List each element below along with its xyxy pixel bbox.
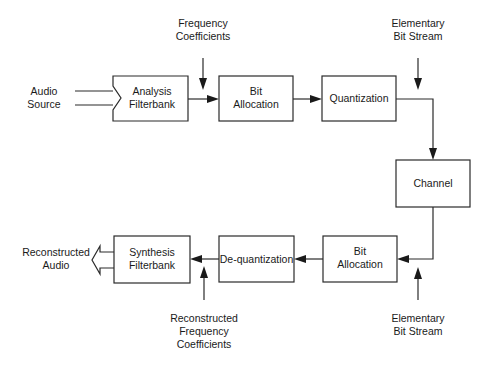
analysis-filterbank-label-line2: Filterbank: [129, 98, 176, 110]
synthesis-filterbank-label-line1: Synthesis: [129, 246, 175, 258]
audio-source-label-line2: Source: [27, 98, 60, 110]
elementary-bit-stream-top-input: Elementary Bit Stream: [391, 17, 445, 90]
elementary-bit-stream-bottom-label-line1: Elementary: [391, 312, 445, 324]
quantization-block: Quantization: [322, 76, 396, 121]
reconstructed-audio-output-arrow: [92, 246, 114, 274]
audio-source-input: Audio Source: [27, 85, 113, 110]
elementary-bit-stream-bottom-input: Elementary Bit Stream: [391, 267, 445, 337]
reconstructed-audio-label-line2: Audio: [43, 259, 70, 271]
channel-block: Channel: [396, 160, 470, 207]
bitalloc-to-quantization-arrow: [293, 95, 322, 103]
channel-label: Channel: [413, 177, 452, 189]
analysis-to-bitalloc-arrow: [188, 95, 219, 103]
arrowhead-up-icon: [414, 267, 422, 279]
bit-allocation-encoder-block: Bit Allocation: [219, 76, 293, 121]
arrowhead-left-icon: [294, 255, 306, 263]
dequantization-label: De-quantization: [220, 253, 294, 265]
elementary-bit-stream-top-label-line1: Elementary: [391, 17, 445, 29]
reconstructed-frequency-coefficients-label-line2: Frequency: [179, 325, 229, 337]
arrowhead-up-icon: [200, 266, 208, 278]
quantization-to-channel-arrow: [396, 99, 437, 160]
arrowhead-right-icon: [310, 95, 322, 103]
hollow-arrow-left-icon: [92, 246, 114, 274]
frequency-coefficients-label-line1: Frequency: [178, 17, 228, 29]
audio-codec-block-diagram: Audio Source Analysis Filterbank Frequen…: [0, 0, 494, 367]
reconstructed-frequency-coefficients-label-line3: Coefficients: [177, 338, 232, 350]
bit-allocation-decoder-label-line2: Allocation: [337, 258, 383, 270]
bit-allocation-encoder-label-line2: Allocation: [233, 98, 279, 110]
bit-allocation-decoder-block: Bit Allocation: [323, 236, 397, 282]
arrowhead-left-icon: [397, 255, 409, 263]
bitalloc-to-dequantization-arrow: [294, 255, 323, 263]
audio-source-label-line1: Audio: [31, 85, 58, 97]
arrowhead-down-icon: [414, 78, 422, 90]
elementary-bit-stream-bottom-label-line2: Bit Stream: [393, 325, 442, 337]
channel-to-bitalloc-decoder-arrow: [397, 207, 433, 263]
quantization-label: Quantization: [330, 92, 389, 104]
arrowhead-down-icon: [429, 148, 437, 160]
synthesis-filterbank-label-line2: Filterbank: [129, 259, 176, 271]
reconstructed-frequency-coefficients-label-line1: Reconstructed: [170, 312, 238, 324]
bit-allocation-decoder-label-line1: Bit: [354, 245, 366, 257]
reconstructed-audio-output: Reconstructed Audio: [22, 246, 90, 271]
bit-allocation-encoder-label-line1: Bit: [250, 85, 262, 97]
frequency-coefficients-label-line2: Coefficients: [176, 30, 231, 42]
dequantization-block: De-quantization: [219, 236, 294, 282]
reconstructed-audio-label-line1: Reconstructed: [22, 246, 90, 258]
arrowhead-left-icon: [190, 255, 202, 263]
synthesis-filterbank-block: Synthesis Filterbank: [114, 236, 190, 283]
analysis-filterbank-label-line1: Analysis: [132, 85, 171, 97]
arrowhead-right-icon: [207, 95, 219, 103]
arrowhead-down-icon: [199, 78, 207, 90]
dequantization-to-synthesis-arrow: [190, 255, 219, 263]
elementary-bit-stream-top-label-line2: Bit Stream: [393, 30, 442, 42]
analysis-filterbank-block: Analysis Filterbank: [113, 76, 188, 121]
